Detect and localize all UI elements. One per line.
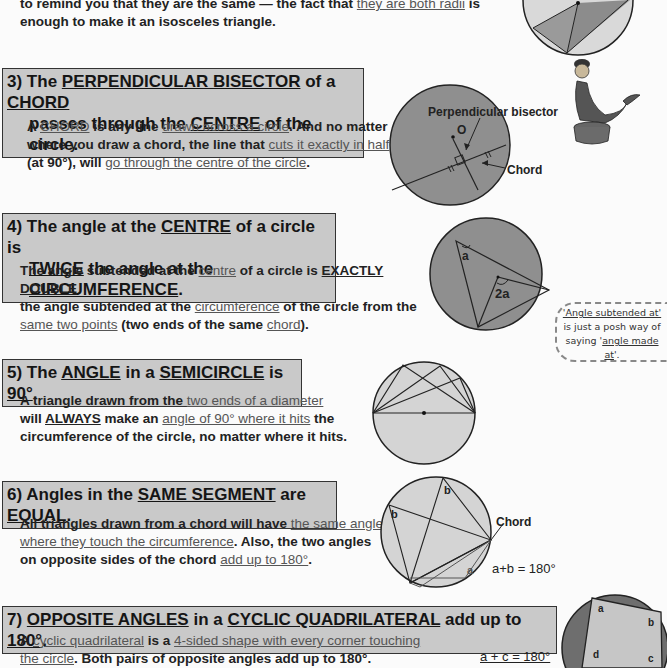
equation-a-plus-c: a + c = 180° [480,649,550,664]
s6b5: add up to 180° [220,552,308,567]
s3b1: CHORD [40,119,90,134]
label-a: a [462,249,469,263]
s4b4: the angle subtended at the [20,299,195,314]
label-a-segment: a [467,564,473,576]
h7-1: in a [189,610,228,629]
intro-line1: to remind you that they are the same — t… [20,0,357,11]
s4b8: (two ends of the same [118,317,267,332]
section4-number: 4) [7,217,22,236]
s5b4: make an [101,411,163,426]
h5-2: in a [121,363,160,382]
seal-illustration [565,55,645,145]
h4-t0: The angle at the [27,217,161,236]
subtended-note: 'Angle subtended at' is just a posh way … [555,302,667,362]
s5b3: ALWAYS [45,411,101,426]
h7-0: OPPOSITE ANGLES [27,610,189,629]
equation-a-plus-b: a+b = 180° [492,561,556,576]
s3b4: . And no matter [289,119,388,134]
s5b5: angle of 90° where it hits [162,411,310,426]
s6b4: on opposite sides of the chord [20,552,220,567]
s6b3: . Also, the two angles [234,534,372,549]
section5-number: 5) [7,363,22,382]
s5b0: A triangle drawn from the [20,393,187,408]
s6b6: . [308,552,312,567]
h6-0: Angles in the [26,485,137,504]
s3b0: A [27,119,40,134]
intro-line2: enough to make it an isosceles triangle. [20,13,480,31]
note-line3-post: '. [614,349,620,360]
section6-number: 6) [7,485,22,504]
section5-body: A triangle drawn from the two ends of a … [20,392,420,446]
label-chord-segment: Chord [496,515,531,529]
h6-2: are [276,485,306,504]
s7b2: is a [144,633,174,648]
s7b4: the circle [20,651,74,666]
section7-number: 7) [7,610,22,629]
s7b3: 4-sided shape with every corner touching [174,633,420,648]
s6b0: All triangles drawn from a chord will ha… [20,516,291,531]
s5b2: will [20,411,45,426]
s4b0: The angle subtended at the [20,263,199,278]
section7-body: A cyclic quadrilateral is a 4-sided shap… [20,632,460,668]
label-chord: Chord [507,163,542,177]
label-b2: b [444,484,451,496]
s3b5: where you draw a chord, the line that [27,137,269,152]
h3-t1: PERPENDICULAR BISECTOR [62,72,301,91]
label-quad-c: c [648,653,654,664]
label-2a: 2a [495,286,509,301]
label-quad-b: b [648,617,654,628]
s5b6: the [310,411,334,426]
label-quad-a: a [598,603,604,614]
h7-2: CYCLIC QUADRILATERAL [227,610,440,629]
s4b6: of the circle from the [280,299,417,314]
note-line2: is just a posh way of [557,320,667,334]
intro-radii-link: they are both radii [357,0,465,11]
h6-1: SAME SEGMENT [138,485,276,504]
intro-text: to remind you that they are the same — t… [20,0,480,31]
label-centre-o: O [457,123,466,137]
section3-number: 3) [7,72,22,91]
label-perpendicular-bisector: Perpendicular bisector [428,105,558,119]
s7b5: . Both pairs of opposite angles add up t… [74,651,371,666]
s6b1: the same angle [291,516,383,531]
s7b1: cyclic quadrilateral [33,633,144,648]
note-line3-pre: saying ' [565,335,602,346]
s4b9: chord [267,317,301,332]
s6b2: where they touch the circumference [20,534,234,549]
s3b9: . [306,155,310,170]
h5-4: is [264,363,283,382]
s4b5: circumference [195,299,280,314]
h3-t3: CHORD [7,93,69,112]
note-line1: 'Angle subtended at' [557,306,667,320]
label-quad-d: d [593,649,599,660]
s3b8: go through the centre of the circle [105,155,306,170]
h3-t2: of a [300,72,335,91]
s5b7: circumference of the circle, no matter w… [20,428,420,446]
label-b1: b [391,508,398,520]
s5b1: two ends of a diameter [187,393,324,408]
h4-t1: CENTRE [161,217,231,236]
s4b2: of a circle is [236,263,322,278]
h5-3: SEMICIRCLE [159,363,264,382]
section3-body: A CHORD is any line drawn across a circl… [27,118,407,172]
section6-body: All triangles drawn from a chord will ha… [20,515,420,569]
intro-line1-end: is [465,0,480,11]
s4b7: same two points [20,317,118,332]
s3b2: is any line [90,119,163,134]
s3b7: (at 90°), will [27,155,105,170]
s3b6: cuts it exactly in half [269,137,390,152]
s4b10: ). [301,317,309,332]
s7b0: A [20,633,33,648]
s4b1: centre [199,263,237,278]
note-line3-link: angle made at [602,335,658,360]
h7-3: add up to [440,610,521,629]
h5-0: The [27,363,61,382]
h3-t0: The [27,72,62,91]
s3b3: drawn across a circle [162,119,289,134]
section4-body: The angle subtended at the centre of a c… [20,262,440,334]
h5-1: ANGLE [61,363,121,382]
